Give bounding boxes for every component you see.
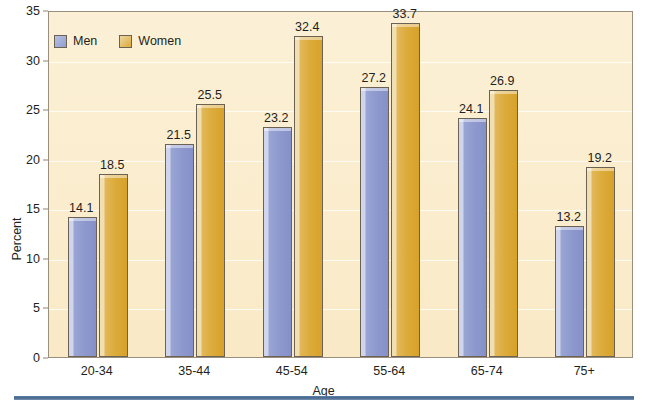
bar-top-highlight bbox=[100, 175, 127, 178]
legend-swatch-men-icon bbox=[54, 35, 67, 48]
x-axis-tick-label: 75+ bbox=[574, 364, 595, 378]
bar-top-highlight bbox=[197, 105, 224, 108]
x-axis-tick-label: 55-64 bbox=[373, 364, 405, 378]
gridline bbox=[49, 62, 632, 63]
y-axis-title: Percent bbox=[10, 204, 24, 274]
y-axis-tick-mark bbox=[43, 358, 48, 359]
bar-value-label: 26.9 bbox=[490, 74, 514, 88]
bar-value-label: 14.1 bbox=[69, 201, 93, 215]
bar-value-label: 23.2 bbox=[264, 111, 288, 125]
gridline bbox=[49, 161, 632, 162]
y-axis: 05101520253035 bbox=[0, 0, 48, 408]
plot-area bbox=[48, 11, 633, 358]
y-axis-tick-label: 35 bbox=[26, 4, 40, 18]
bar-women-65-74[interactable] bbox=[489, 90, 518, 357]
chart-legend: MenWomen bbox=[54, 34, 181, 48]
bar-women-75+[interactable] bbox=[586, 167, 615, 357]
y-axis-tick-mark bbox=[43, 258, 48, 259]
bar-top-highlight bbox=[166, 145, 193, 148]
bar-top-highlight bbox=[69, 218, 96, 221]
y-axis-tick-label: 20 bbox=[26, 153, 40, 167]
legend-swatch-women-icon bbox=[119, 35, 132, 48]
legend-label: Women bbox=[138, 34, 181, 48]
bar-value-label: 13.2 bbox=[557, 210, 581, 224]
gridline bbox=[49, 210, 632, 211]
gridline bbox=[49, 111, 632, 112]
bar-value-label: 21.5 bbox=[167, 128, 191, 142]
y-axis-tick-label: 10 bbox=[26, 252, 40, 266]
x-axis-tick-label: 45-54 bbox=[276, 364, 308, 378]
x-axis-tick-label: 65-74 bbox=[471, 364, 503, 378]
x-axis-tick-label: 20-34 bbox=[81, 364, 113, 378]
bar-value-label: 24.1 bbox=[459, 102, 483, 116]
bar-top-highlight bbox=[295, 37, 322, 40]
bar-top-highlight bbox=[587, 168, 614, 171]
bar-top-highlight bbox=[361, 88, 388, 91]
bar-men-55-64[interactable] bbox=[360, 87, 389, 357]
bar-women-45-54[interactable] bbox=[294, 36, 323, 357]
y-axis-tick-mark bbox=[43, 308, 48, 309]
bar-top-highlight bbox=[392, 24, 419, 27]
y-axis-tick-label: 15 bbox=[26, 202, 40, 216]
bottom-divider-rule bbox=[14, 396, 634, 400]
bar-women-55-64[interactable] bbox=[391, 23, 420, 357]
y-axis-tick-mark bbox=[43, 11, 48, 12]
bar-top-highlight bbox=[459, 119, 486, 122]
legend-item-men[interactable]: Men bbox=[54, 34, 97, 48]
bar-women-35-44[interactable] bbox=[196, 104, 225, 357]
bar-men-75+[interactable] bbox=[555, 226, 584, 357]
bar-men-35-44[interactable] bbox=[165, 144, 194, 357]
legend-label: Men bbox=[73, 34, 97, 48]
y-axis-tick-label: 5 bbox=[33, 301, 40, 315]
y-axis-tick-label: 30 bbox=[26, 54, 40, 68]
y-axis-tick-label: 25 bbox=[26, 103, 40, 117]
bar-top-highlight bbox=[490, 91, 517, 94]
y-axis-tick-mark bbox=[43, 110, 48, 111]
legend-item-women[interactable]: Women bbox=[119, 34, 181, 48]
bar-chart-figure: 05101520253035 Percent 20-3435-4445-5455… bbox=[0, 0, 647, 408]
bar-value-label: 19.2 bbox=[588, 151, 612, 165]
y-axis-tick-label: 0 bbox=[33, 351, 40, 365]
bar-top-highlight bbox=[264, 128, 291, 131]
bar-men-45-54[interactable] bbox=[263, 127, 292, 357]
gridline bbox=[49, 260, 632, 261]
bar-value-label: 25.5 bbox=[198, 88, 222, 102]
bar-women-20-34[interactable] bbox=[99, 174, 128, 357]
bar-value-label: 18.5 bbox=[100, 158, 124, 172]
bar-value-label: 33.7 bbox=[393, 7, 417, 21]
gridline bbox=[49, 309, 632, 310]
y-axis-tick-mark bbox=[43, 209, 48, 210]
bar-men-65-74[interactable] bbox=[458, 118, 487, 357]
bar-top-highlight bbox=[556, 227, 583, 230]
y-axis-tick-mark bbox=[43, 60, 48, 61]
bar-men-20-34[interactable] bbox=[68, 217, 97, 357]
bar-value-label: 32.4 bbox=[295, 20, 319, 34]
bar-value-label: 27.2 bbox=[362, 71, 386, 85]
y-axis-tick-mark bbox=[43, 159, 48, 160]
x-axis-tick-label: 35-44 bbox=[178, 364, 210, 378]
